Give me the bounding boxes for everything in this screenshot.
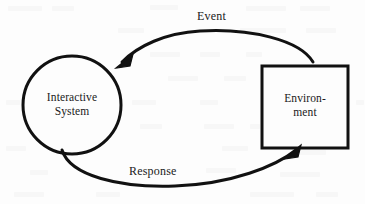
edge-response[interactable] (62, 145, 301, 186)
edge-event[interactable] (116, 31, 313, 68)
edge-response-path (62, 150, 296, 186)
edge-event-path (122, 31, 313, 62)
edge-event-arrowhead (116, 54, 133, 68)
node-interactive-system[interactable] (23, 56, 121, 154)
node-environment[interactable] (262, 66, 348, 148)
edge-label-response: Response (129, 164, 177, 178)
diagram-canvas: Interactive System Environ- ment Event R… (0, 0, 365, 204)
diagram-graphics (0, 0, 365, 204)
edge-label-event: Event (197, 9, 226, 23)
